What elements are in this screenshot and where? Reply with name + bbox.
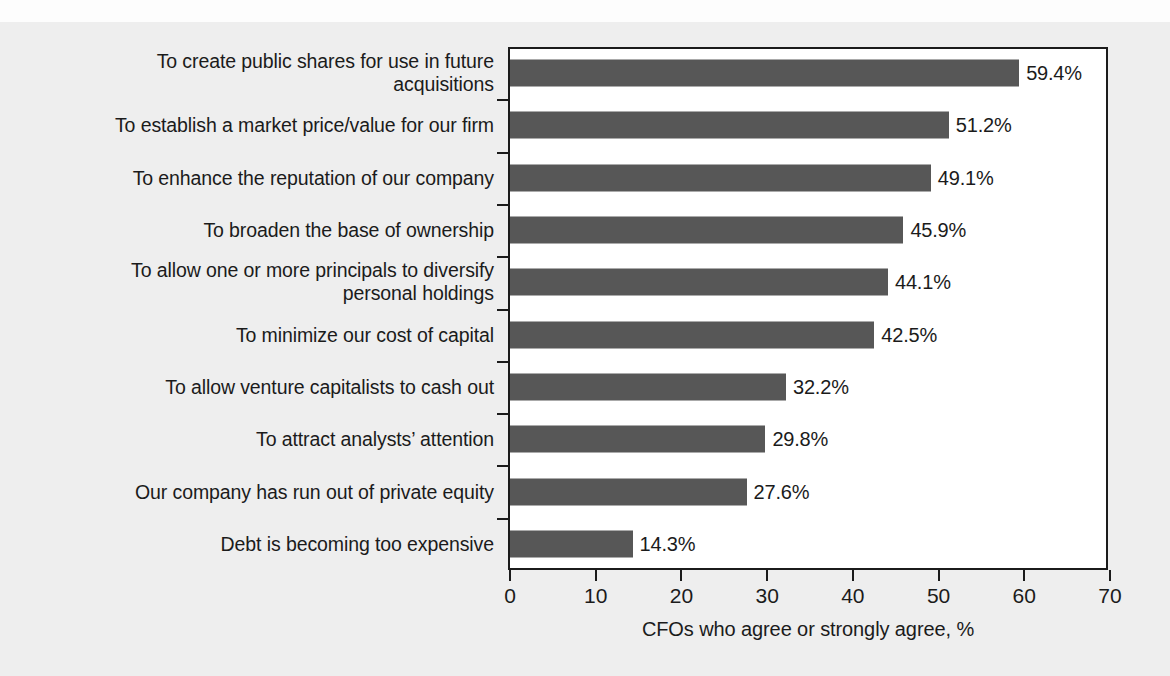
category-label: Debt is becoming too expensive <box>54 532 494 555</box>
x-axis-tick-label: 70 <box>1080 584 1140 608</box>
x-axis-tick <box>1023 570 1025 581</box>
x-axis-tick-label: 10 <box>566 584 626 608</box>
x-axis-tick-label: 40 <box>823 584 883 608</box>
bar <box>510 426 765 453</box>
bar-rows-container: To create public shares for use in futur… <box>0 47 1170 570</box>
bar-row: To attract analysts’ attention29.8% <box>0 413 1170 465</box>
bar-value-label: 49.1% <box>938 166 994 189</box>
category-label: To attract analysts’ attention <box>54 428 494 451</box>
page-top-band <box>0 0 1170 22</box>
x-axis-tick <box>938 570 940 581</box>
bar-row: To minimize our cost of capital42.5% <box>0 309 1170 361</box>
category-label: Our company has run out of private equit… <box>54 480 494 503</box>
bar-row: To enhance the reputation of our company… <box>0 152 1170 204</box>
x-axis-tick <box>595 570 597 581</box>
bar-value-label: 32.2% <box>793 375 849 398</box>
bar <box>510 373 786 400</box>
bar-row: Debt is becoming too expensive14.3% <box>0 518 1170 570</box>
x-axis-tick <box>509 570 511 581</box>
bar-row: Our company has run out of private equit… <box>0 465 1170 517</box>
category-label: To allow one or more principals to diver… <box>54 259 494 305</box>
x-axis-tick-label: 60 <box>994 584 1054 608</box>
bar <box>510 321 874 348</box>
bar-row: To broaden the base of ownership45.9% <box>0 204 1170 256</box>
category-label: To allow venture capitalists to cash out <box>54 375 494 398</box>
category-label: To minimize our cost of capital <box>54 323 494 346</box>
bar-value-label: 59.4% <box>1026 62 1082 85</box>
x-axis-title: CFOs who agree or strongly agree, % <box>508 618 1108 641</box>
chart-figure: To create public shares for use in futur… <box>0 0 1170 676</box>
bar-value-label: 42.5% <box>881 323 937 346</box>
x-axis-tick-label: 0 <box>480 584 540 608</box>
category-label: To establish a market price/value for ou… <box>54 114 494 137</box>
category-label: To enhance the reputation of our company <box>54 166 494 189</box>
bar-value-label: 29.8% <box>772 428 828 451</box>
bar <box>510 60 1019 87</box>
bar <box>510 269 888 296</box>
bar-value-label: 45.9% <box>910 219 966 242</box>
bar-row: To establish a market price/value for ou… <box>0 99 1170 151</box>
x-axis-tick-label: 30 <box>737 584 797 608</box>
category-label: To create public shares for use in futur… <box>54 50 494 96</box>
bar-row: To allow one or more principals to diver… <box>0 256 1170 308</box>
bar-value-label: 51.2% <box>956 114 1012 137</box>
bar-value-label: 44.1% <box>895 271 951 294</box>
bar-value-label: 27.6% <box>754 480 810 503</box>
x-axis-tick-label: 50 <box>909 584 969 608</box>
bar-row: To create public shares for use in futur… <box>0 47 1170 99</box>
bar <box>510 164 931 191</box>
bar-row: To allow venture capitalists to cash out… <box>0 361 1170 413</box>
bar <box>510 112 949 139</box>
bar-value-label: 14.3% <box>640 532 696 555</box>
bar <box>510 478 747 505</box>
bar <box>510 217 903 244</box>
x-axis-tick <box>852 570 854 581</box>
x-axis-tick <box>1109 570 1111 581</box>
category-label: To broaden the base of ownership <box>54 219 494 242</box>
x-axis-tick <box>680 570 682 581</box>
bar <box>510 530 633 557</box>
x-axis-tick <box>766 570 768 581</box>
x-axis-tick-label: 20 <box>651 584 711 608</box>
